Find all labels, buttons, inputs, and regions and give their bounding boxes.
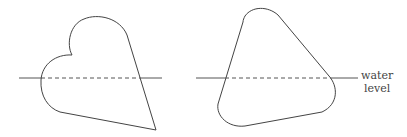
heart-outline: [41, 17, 156, 130]
diagram-canvas: [0, 0, 407, 137]
water-level-label-line2: level: [361, 82, 393, 95]
water-level-label-line1: water: [361, 69, 393, 82]
triangle-figure: [196, 8, 358, 126]
heart-figure: [19, 17, 162, 130]
water-level-label: water level: [361, 69, 393, 95]
rounded-triangle-outline: [218, 8, 336, 126]
